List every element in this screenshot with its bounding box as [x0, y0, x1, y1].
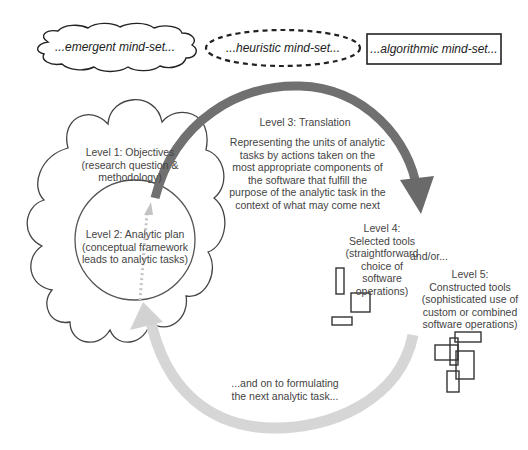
- level2-desc-line1: (conceptual framework: [70, 241, 200, 254]
- loop-back-line2: the next analytic task...: [225, 390, 345, 403]
- level4-line: Level 4:: [338, 222, 426, 235]
- level5-line: (sophisticated use of: [412, 293, 528, 306]
- level1-desc-line1: (research question &: [60, 159, 200, 172]
- level5-tool-box-5: [447, 371, 459, 392]
- level5-tool-box-1: [455, 332, 481, 342]
- level5-line: Constructed tools: [412, 281, 528, 294]
- level3-desc-line: the software that fulfill the: [220, 174, 395, 187]
- level5-label: Level 5: Constructed tools (sophisticate…: [412, 268, 528, 331]
- heuristic-mindset-label: ...heuristic mind-set...: [218, 41, 348, 55]
- emergent-mindset-label: ...emergent mind-set...: [50, 40, 180, 54]
- level2-desc-line2: leads to analytic tasks): [70, 253, 200, 266]
- level1-title: Level 1: Objectives: [60, 146, 200, 159]
- level5-line: custom or combined: [412, 306, 528, 319]
- level1-desc-line2: methodology): [60, 171, 200, 184]
- level3-title: Level 3: Translation: [230, 116, 380, 129]
- loop-back-label: ...and on to formulating the next analyt…: [225, 377, 345, 402]
- return-arc: [150, 318, 413, 428]
- loop-back-line1: ...and on to formulating: [225, 377, 345, 390]
- level3-description: Representing the units of analytic tasks…: [220, 136, 395, 211]
- level5-tool-box-2: [435, 345, 458, 360]
- algorithmic-mindset-label: ...algorithmic mind-set...: [368, 42, 500, 56]
- level3-desc-line: most appropriate components of: [220, 161, 395, 174]
- level2-title: Level 2: Analytic plan: [70, 228, 200, 241]
- level3-desc-line: tasks by actions taken on the: [220, 149, 395, 162]
- level2-label: Level 2: Analytic plan (conceptual frame…: [70, 228, 200, 266]
- level5-line: Level 5:: [412, 268, 528, 281]
- level4-line: Selected tools: [338, 235, 426, 248]
- translation-arrowhead-icon: [400, 176, 434, 214]
- level1-label: Level 1: Objectives (research question &…: [60, 146, 200, 184]
- level3-desc-line: Representing the units of analytic: [220, 136, 395, 149]
- level3-desc-line: context of what may come next: [220, 199, 395, 212]
- level4-tool-box-3: [332, 317, 352, 325]
- level3-desc-line: purpose of the analytic task in the: [220, 186, 395, 199]
- level5-line: software operations): [412, 318, 528, 331]
- andor-label: and/or...: [410, 250, 470, 263]
